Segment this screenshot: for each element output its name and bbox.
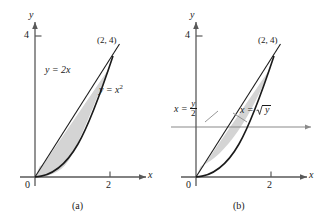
y-axis-label-b: y: [190, 10, 194, 20]
x-axis-arrowhead-b: [300, 174, 307, 180]
left-boundary-eq-b: =: [181, 103, 187, 114]
y-tick-label-4-b: 4: [185, 30, 190, 40]
y-axis-arrowhead-b: [193, 22, 199, 29]
right-boundary-label-b: x=y: [240, 105, 270, 115]
x-tick-label-2-b: 2: [267, 180, 272, 190]
line-label-rhs-a: 2x: [61, 64, 70, 75]
parabola-label-eq-a: =: [106, 84, 112, 95]
line-label-eq-a: =: [52, 64, 58, 75]
origin-label-a: 0: [25, 180, 30, 190]
parabola-label-lhs-a: y: [99, 84, 103, 95]
left-boundary-denominator-b: 2: [190, 109, 197, 118]
point-label-2-4-a: (2, 4): [97, 36, 117, 45]
line-label-a: y=2x: [45, 65, 71, 75]
horizontal-strip-arrowhead-b: [305, 125, 311, 130]
sqrt-radical-stroke: [256, 105, 263, 115]
y-axis-label-a: y: [29, 10, 33, 20]
leader-line-left-boundary-b: [205, 111, 218, 122]
caption-a: (a): [72, 201, 83, 211]
x-axis-arrowhead-a: [139, 174, 146, 180]
left-boundary-label-b: x=y2: [174, 99, 197, 119]
line-label-lhs-a: y: [45, 64, 49, 75]
right-boundary-lhs-b: x: [240, 104, 244, 115]
left-boundary-fraction-b: y2: [190, 99, 197, 119]
x-axis-label-a: x: [148, 170, 152, 180]
parabola-label-exponent-a: 2: [120, 83, 123, 90]
panel-a: y x 4 2 0 (2, 4) y=2x y=x2 (a): [0, 0, 161, 219]
left-boundary-lhs-b: x: [174, 103, 178, 114]
shaded-region-b-fill: [196, 67, 271, 177]
sqrt-icon: y: [256, 105, 269, 115]
y-axis-arrowhead-a: [32, 22, 38, 29]
right-boundary-eq-b: =: [247, 104, 253, 115]
y-tick-label-4-a: 4: [24, 30, 29, 40]
point-label-2-4-b: (2, 4): [258, 36, 278, 45]
origin-label-b: 0: [186, 180, 191, 190]
panel-b: y x 4 2 0 (2, 4) x=y2 x=y (b): [161, 0, 322, 219]
parabola-label-a: y=x2: [99, 84, 123, 95]
calculus-figure: y x 4 2 0 (2, 4) y=2x y=x2 (a): [0, 0, 322, 219]
x-axis-label-b: x: [309, 170, 313, 180]
sqrt-overbar: [262, 105, 270, 106]
x-tick-label-2-a: 2: [106, 180, 111, 190]
caption-b: (b): [233, 201, 245, 211]
